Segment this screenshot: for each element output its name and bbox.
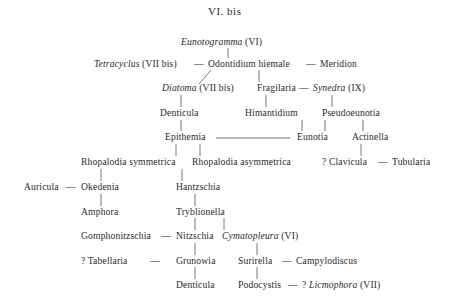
node-eunotia: Eunotia xyxy=(297,131,328,143)
node-synedra: Synedra (IX) xyxy=(313,82,365,94)
node-tabellaria: ? Tabellaria xyxy=(81,255,128,267)
taxon-reference: (VI) xyxy=(245,36,262,47)
node-auricula: Auricula xyxy=(24,181,59,193)
node-diatoma: Diatoma (VII bis) xyxy=(162,82,234,94)
connector-dash: — xyxy=(306,58,316,70)
node-surirella: Surirella xyxy=(238,255,272,267)
taxon-reference: (VII) xyxy=(360,279,380,290)
node-meridion: Meridion xyxy=(320,58,357,70)
node-denticula-bottom: Denticula xyxy=(176,279,215,291)
connector-dash: — xyxy=(150,255,160,267)
node-eunotogramma: Eunotogramma (VI) xyxy=(181,36,262,48)
node-odontidium-hiemale: Odontidium hiemale xyxy=(208,58,290,70)
taxon-reference: (VI) xyxy=(281,230,298,241)
taxon-name: Eunotogramma xyxy=(181,36,243,47)
connector-dash: — xyxy=(161,230,171,242)
uncertain-marker: ? xyxy=(302,279,306,290)
node-cymatopleura: Cymatopleura (VI) xyxy=(222,230,298,242)
node-himantidium: Himantidium xyxy=(245,107,298,119)
node-campylodiscus: Campylodiscus xyxy=(296,255,357,267)
node-fragilaria: Fragilaria xyxy=(257,82,296,94)
node-clavicula: ? Clavicula xyxy=(322,156,367,168)
node-pseudoeunotia: Pseudoeunotia xyxy=(322,107,380,119)
taxon-reference: (IX) xyxy=(348,82,365,93)
node-licmophora: ? Licmophora (VII) xyxy=(302,279,380,291)
node-rhopalodia-symmetrica: Rhopalodia symmetrica xyxy=(81,156,176,168)
node-podocystis: Podocystis xyxy=(238,279,281,291)
node-okedenia: Okedenia xyxy=(81,181,119,193)
node-hantzschia: Hantzschia xyxy=(176,181,220,193)
connector-dash: — xyxy=(299,82,309,94)
taxon-name: Licmophora xyxy=(309,279,357,290)
node-rhopalodia-asymmetrica: Rhopalodia asymmetrica xyxy=(192,156,291,168)
node-tubularia: Tubularia xyxy=(392,156,430,168)
node-epithemia: Epithemia xyxy=(165,131,206,143)
node-nitzschia: Nitzschia xyxy=(176,230,214,242)
node-denticula-top: Denticula xyxy=(160,107,199,119)
taxon-name: Synedra xyxy=(313,82,346,93)
node-amphora: Amphora xyxy=(81,206,118,218)
taxon-reference: (VII bis) xyxy=(142,58,177,69)
node-tryblionella: Tryblionella xyxy=(176,206,225,218)
node-gomphonitzschia: Gomphonitzschia xyxy=(81,230,151,242)
taxon-name: Cymatopleura xyxy=(222,230,279,241)
taxon-name: Tetracyclus xyxy=(94,58,140,69)
connector-dash: — xyxy=(288,279,298,291)
node-grunowia: Grunowia xyxy=(176,255,216,267)
node-tetracyclus: Tetracyclus (VII bis) xyxy=(94,58,177,70)
connector-dash: — xyxy=(194,58,204,70)
connector-dash: — xyxy=(66,181,76,193)
taxon-name: Diatoma xyxy=(162,82,197,93)
connector-dash: — xyxy=(378,156,388,168)
node-actinella: Actinella xyxy=(352,131,389,143)
connector-dash: — xyxy=(282,255,292,267)
taxon-reference: (VII bis) xyxy=(199,82,234,93)
